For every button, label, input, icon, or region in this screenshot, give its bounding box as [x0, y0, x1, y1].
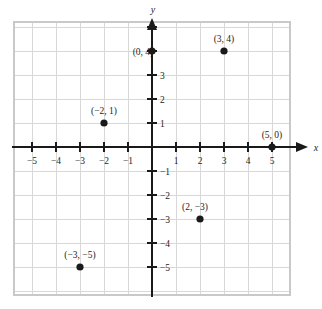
y-axis-tick-label: −4	[160, 239, 170, 249]
y-axis-tick-label: −3	[160, 215, 170, 225]
data-point-label: (5, 0)	[262, 130, 283, 141]
x-axis-tick-label: −5	[27, 156, 37, 166]
y-axis-tick-label: −2	[160, 191, 170, 201]
x-axis-tick-label: −1	[123, 156, 133, 166]
data-point	[220, 47, 227, 54]
data-point-label: (2, −3)	[182, 202, 208, 213]
x-axis-tick-label: 4	[246, 156, 251, 166]
x-axis-label: x	[313, 142, 319, 153]
y-axis-tick-label: 2	[160, 95, 165, 105]
data-point-label: (3, 4)	[214, 34, 235, 45]
y-axis-tick-label: 3	[160, 71, 165, 81]
data-point-label: (0, 4)	[133, 47, 154, 58]
x-axis-tick-label: −4	[51, 156, 61, 166]
x-axis-tick-label: 5	[270, 156, 275, 166]
data-point-label: (−3, −5)	[64, 250, 95, 261]
data-point	[196, 215, 203, 222]
x-axis-tick-label: 2	[198, 156, 203, 166]
data-point-label: (−2, 1)	[91, 106, 117, 117]
y-axis-label: y	[150, 4, 156, 15]
x-axis-tick-label: 3	[222, 156, 227, 166]
data-point	[100, 119, 107, 126]
y-axis-tick-label: −5	[160, 263, 170, 273]
x-axis-tick-label: −2	[99, 156, 109, 166]
data-point	[76, 263, 83, 270]
coordinate-plane-chart: −5−4−3−2−112345−5−4−3−2−1123 xy (0, 4)(3…	[0, 0, 322, 309]
data-point	[268, 143, 275, 150]
y-axis-tick-label: 1	[160, 119, 165, 129]
x-axis-tick-label: −3	[75, 156, 85, 166]
x-axis-tick-label: 1	[174, 156, 179, 166]
y-axis-tick-label: −1	[160, 167, 170, 177]
